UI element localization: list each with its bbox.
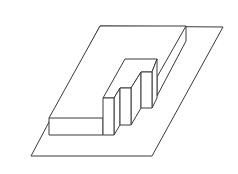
stepped-solid-diagram [0,0,238,174]
pillar-3-front [141,72,152,108]
pillar-1-front [103,98,114,135]
diagram-canvas: Isometric stepped solid on a parallelogr… [0,0,238,174]
pillar-2-front [120,88,131,125]
slab-front-face [49,118,103,135]
